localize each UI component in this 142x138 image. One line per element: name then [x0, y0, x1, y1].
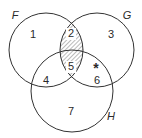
- region-label-3: 3: [108, 28, 114, 40]
- region-label-5: 5: [68, 60, 74, 72]
- set-label-h: H: [107, 110, 115, 122]
- region-label-1: 1: [30, 28, 36, 40]
- region-label-4: 4: [43, 74, 49, 86]
- region-label-7: 7: [68, 105, 74, 117]
- venn-diagram: F G H 1 2 3 4 5 6 7 *: [0, 0, 142, 138]
- set-label-g: G: [123, 9, 132, 21]
- set-label-f: F: [12, 9, 20, 21]
- asterisk-marker: *: [93, 60, 99, 76]
- region-label-2: 2: [68, 27, 74, 39]
